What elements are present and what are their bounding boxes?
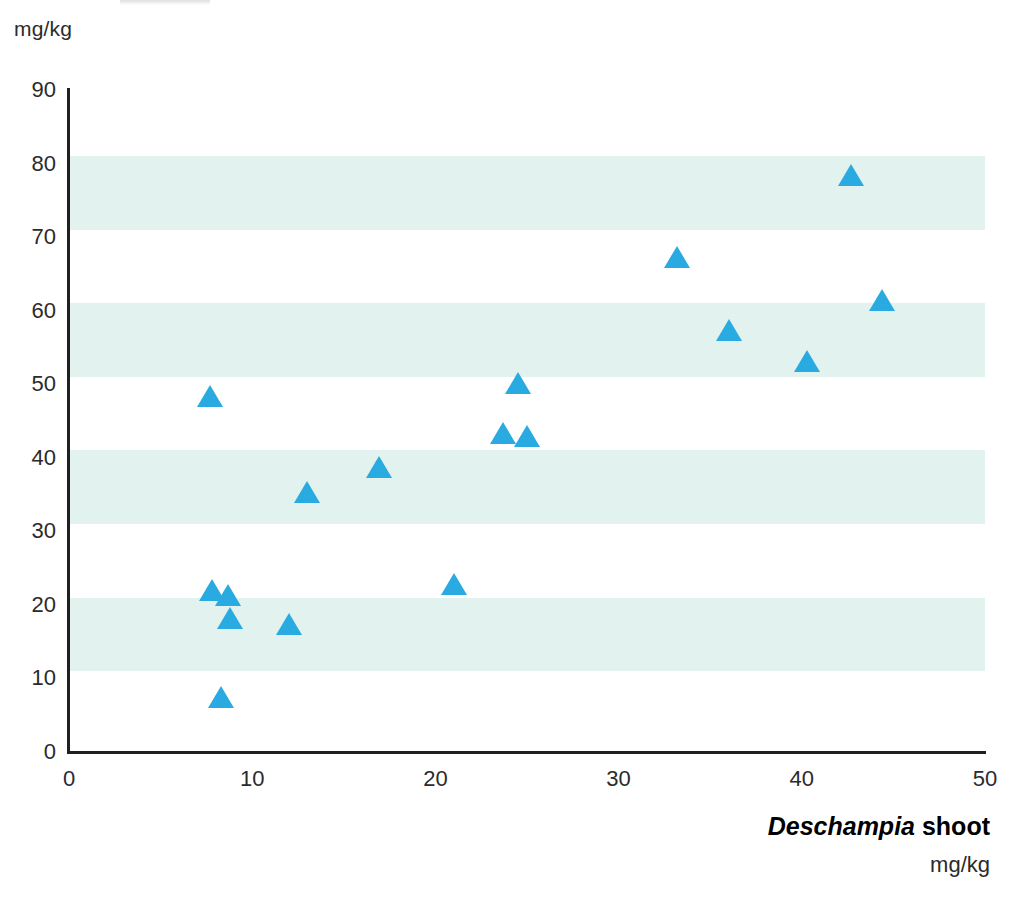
scatter-point-marker: [490, 422, 516, 444]
x-axis-title-genus: Deschampia: [768, 812, 915, 840]
scatter-point-marker: [869, 289, 895, 311]
scatter-point-marker: [197, 385, 223, 407]
scatter-point-marker: [294, 481, 320, 503]
scatter-markers-layer: [0, 0, 1020, 899]
scatter-point-marker: [716, 319, 742, 341]
scatter-point-marker: [505, 372, 531, 394]
scatter-point-marker: [217, 607, 243, 629]
x-axis-title: Deschampia shoot: [768, 812, 990, 841]
scatter-point-marker: [441, 573, 467, 595]
scatter-point-marker: [794, 350, 820, 372]
scatter-point-marker: [215, 584, 241, 606]
scatter-point-marker: [664, 246, 690, 268]
scatter-point-marker: [208, 686, 234, 708]
x-axis-title-rest: shoot: [915, 812, 990, 840]
scatter-point-marker: [366, 456, 392, 478]
scatter-point-marker: [276, 613, 302, 635]
scatter-point-marker: [514, 425, 540, 447]
x-axis-unit-label: mg/kg: [930, 852, 990, 878]
scatter-point-marker: [838, 164, 864, 186]
